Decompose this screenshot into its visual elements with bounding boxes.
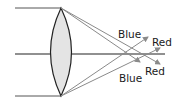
label-blue-bottom: Blue	[119, 72, 142, 84]
chromatic-aberration-diagram: Blue Red Blue Red	[0, 0, 182, 102]
label-red-top: Red	[152, 36, 172, 48]
label-blue-top: Blue	[118, 28, 141, 40]
convex-lens	[51, 8, 72, 96]
label-red-bottom: Red	[145, 65, 165, 77]
ray-bottom-blue	[61, 37, 148, 96]
